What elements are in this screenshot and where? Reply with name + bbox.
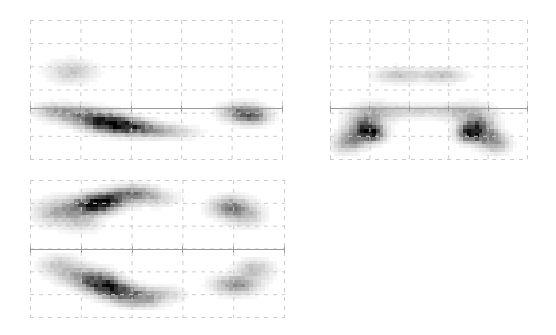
panel-top-left [30, 20, 283, 160]
heatmap-canvas-top-left [30, 20, 283, 160]
heatmap-canvas-top-right [330, 20, 528, 160]
panel-top-right [330, 20, 528, 160]
heatmap-canvas-bottom-left [30, 180, 285, 318]
figure-root [0, 0, 556, 335]
panel-bottom-left [30, 180, 285, 318]
